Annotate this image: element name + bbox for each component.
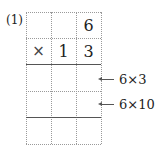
- answer-cell-r4-c1[interactable]: [51, 118, 76, 144]
- answer-cell-r2-c1[interactable]: [51, 65, 76, 91]
- cell-r0-c0[interactable]: [26, 12, 51, 38]
- hint-text: 6×10: [119, 97, 155, 112]
- arrow-left-icon: [100, 104, 114, 105]
- answer-cell-r4-c0[interactable]: [26, 118, 51, 144]
- times-sign: ×: [26, 38, 51, 64]
- multiplier-ones-digit: 3: [76, 38, 101, 64]
- multiplication-grid: 6 × 1 3: [26, 12, 101, 144]
- answer-cell-r4-c2[interactable]: [76, 118, 101, 144]
- multiplicand-digit: 6: [76, 12, 101, 38]
- multiplier-tens-digit: 1: [51, 38, 76, 64]
- arrow-left-icon: [100, 79, 114, 80]
- grid-line: [26, 144, 101, 145]
- answer-cell-r3-c1[interactable]: [51, 91, 76, 117]
- partial-product-hint-tens: 6×10: [100, 97, 155, 112]
- partial-product-hint-ones: 6×3: [100, 72, 146, 87]
- cell-r0-c1[interactable]: [51, 12, 76, 38]
- answer-cell-r2-c0[interactable]: [26, 65, 51, 91]
- problem-label: (1): [6, 13, 23, 27]
- hint-text: 6×3: [119, 72, 146, 87]
- answer-cell-r3-c0[interactable]: [26, 91, 51, 117]
